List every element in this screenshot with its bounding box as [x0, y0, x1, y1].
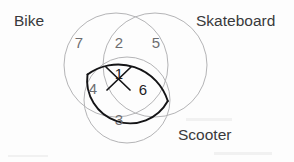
region-count-skateboard-scooter: 6 [139, 81, 147, 98]
set-label-skateboard: Skateboard [196, 12, 275, 29]
scan-artifacts [8, 118, 272, 157]
region-count-bike-scooter: 4 [89, 80, 97, 97]
set-label-bike: Bike [14, 12, 44, 29]
region-count-bike-skateboard: 2 [115, 34, 123, 51]
region-count-scooter-only: 3 [115, 111, 123, 128]
region-count-skateboard-only: 5 [152, 34, 160, 51]
region-count-bike-only: 7 [75, 34, 83, 51]
venn-diagram-canvas: Bike Skateboard Scooter 7 2 5 4 1 6 3 [0, 0, 294, 162]
region-count-bike-skateboard-scooter: 1 [115, 65, 123, 82]
venn-diagram-figure: Bike Skateboard Scooter 7 2 5 4 1 6 3 [0, 0, 294, 162]
set-label-scooter: Scooter [178, 126, 231, 143]
